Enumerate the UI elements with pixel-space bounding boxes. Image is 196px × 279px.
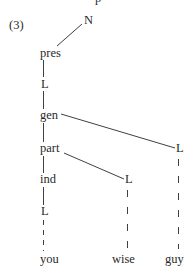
edge-gen-L-right xyxy=(61,114,175,148)
node-L-right: L xyxy=(176,141,184,155)
node-pres: pres xyxy=(40,46,61,60)
node-part: part xyxy=(40,141,59,155)
node-N: N xyxy=(84,13,93,27)
edge-N-pres xyxy=(57,24,82,46)
node-ind: ind xyxy=(40,172,56,186)
node-L-2: L xyxy=(41,204,49,218)
edge-part-L-mid xyxy=(64,153,124,179)
word-you: you xyxy=(40,252,59,266)
clipped-text-above: p xyxy=(95,0,101,5)
tree-edges xyxy=(0,0,196,279)
node-L-1: L xyxy=(41,77,49,91)
node-L-mid: L xyxy=(125,172,133,186)
word-wise: wise xyxy=(112,252,135,266)
node-gen: gen xyxy=(40,108,58,122)
dependency-tree-diagram: p (3) N pres L gen part L ind L L you wi… xyxy=(0,0,196,279)
example-number: (3) xyxy=(9,18,24,32)
word-guy: guy xyxy=(165,252,184,266)
